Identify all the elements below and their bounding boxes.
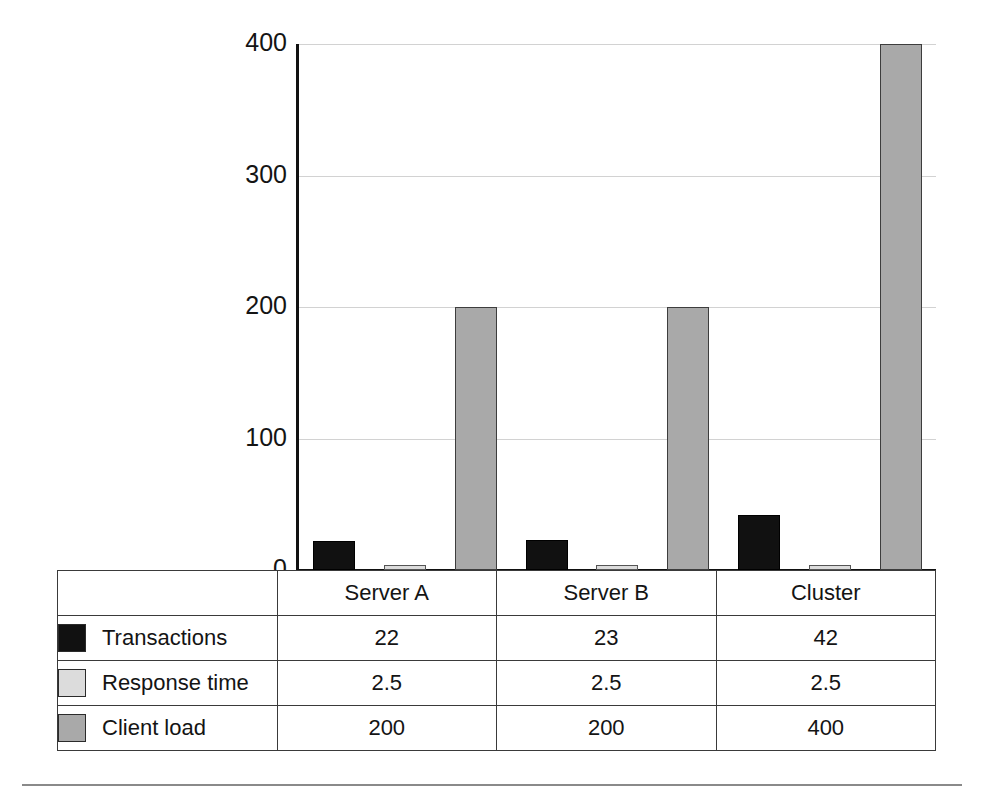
- bar-transactions-server-b[interactable]: [526, 540, 568, 570]
- table-cell: 2.5: [277, 661, 497, 706]
- bar-client-load-server-b[interactable]: [667, 307, 709, 570]
- y-tick-100: 100: [217, 425, 287, 450]
- y-axis-tick-labels: 400 300 200 100 0: [215, 0, 287, 600]
- page-divider-rule: [22, 784, 962, 786]
- legend-cell-transactions[interactable]: Transactions: [58, 616, 278, 661]
- y-tick-400: 400: [217, 30, 287, 55]
- bar-group-server-a: [299, 44, 511, 570]
- column-header-server-a: Server A: [277, 571, 497, 616]
- table-row: Response time2.52.52.5: [58, 661, 936, 706]
- table-cell: 200: [497, 706, 717, 751]
- bar-transactions-cluster[interactable]: [738, 515, 780, 570]
- data-table: Server AServer BClusterTransactions22234…: [57, 570, 936, 751]
- plot-grid: [299, 44, 936, 570]
- bar-client-load-server-a[interactable]: [455, 307, 497, 570]
- medium-gray-square-swatch: [58, 714, 86, 742]
- table-row: Client load200200400: [58, 706, 936, 751]
- column-header-cluster: Cluster: [716, 571, 936, 616]
- table-cell: 400: [716, 706, 936, 751]
- table-cell: 2.5: [497, 661, 717, 706]
- table-corner-cell: [58, 571, 278, 616]
- black-square-swatch: [58, 624, 86, 652]
- table-cell: 200: [277, 706, 497, 751]
- chart-data-table: Server AServer BClusterTransactions22234…: [57, 570, 936, 748]
- column-header-server-b: Server B: [497, 571, 717, 616]
- bar-client-load-cluster[interactable]: [880, 44, 922, 570]
- legend-cell-response-time[interactable]: Response time: [58, 661, 278, 706]
- bar-chart: 400 300 200 100 0: [0, 0, 981, 600]
- legend-label: Transactions: [102, 625, 227, 651]
- table-cell: 42: [716, 616, 936, 661]
- light-gray-square-swatch: [58, 669, 86, 697]
- legend-label: Response time: [102, 670, 249, 696]
- bar-group-server-b: [511, 44, 723, 570]
- legend-label: Client load: [102, 715, 206, 741]
- bar-group-cluster: [724, 44, 936, 570]
- table-cell: 22: [277, 616, 497, 661]
- legend-cell-client-load[interactable]: Client load: [58, 706, 278, 751]
- table-cell: 2.5: [716, 661, 936, 706]
- y-tick-300: 300: [217, 162, 287, 187]
- chart-page: 400 300 200 100 0 Server AServer BCluste…: [0, 0, 981, 805]
- y-tick-200: 200: [217, 293, 287, 318]
- table-cell: 23: [497, 616, 717, 661]
- table-row: Transactions222342: [58, 616, 936, 661]
- table-header-row: Server AServer BCluster: [58, 571, 936, 616]
- bar-transactions-server-a[interactable]: [313, 541, 355, 570]
